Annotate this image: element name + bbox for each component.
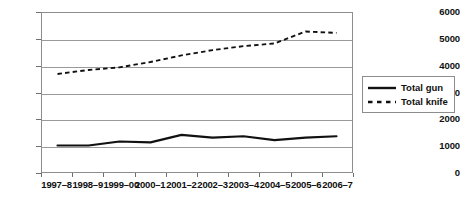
x-tick-label: 2006–7 [322, 180, 353, 190]
legend-item-total-gun: Total gun [363, 81, 454, 95]
y-tick-label: 1000 [426, 141, 460, 151]
x-tick-label: 2005–6 [291, 180, 322, 190]
legend-label-total-knife: Total knife [401, 97, 448, 107]
plot-area [41, 12, 353, 173]
x-tick-mark [103, 173, 104, 177]
x-tick-mark [291, 173, 292, 177]
data-lines [42, 13, 352, 172]
x-tick-mark [259, 173, 260, 177]
legend-item-total-knife: Total knife [363, 95, 454, 109]
legend-swatch-dashed-line-icon [367, 97, 397, 107]
x-tick-mark [166, 173, 167, 177]
x-tick-label: 2002–3 [197, 180, 228, 190]
y-tick-label: 6000 [426, 7, 460, 17]
y-tick-label: 4000 [426, 61, 460, 71]
x-tick-label: 1998–9 [72, 180, 103, 190]
x-tick-mark [72, 173, 73, 177]
y-tick-label: 2000 [426, 114, 460, 124]
x-tick-label: 2003–4 [228, 180, 259, 190]
x-tick-mark [353, 173, 354, 177]
legend-label-total-gun: Total gun [401, 83, 443, 93]
x-tick-mark [135, 173, 136, 177]
x-tick-label: 1999–00 [103, 180, 134, 190]
y-tick-label: 0 [426, 168, 460, 178]
x-tick-label: 2000–1 [135, 180, 166, 190]
x-tick-mark [322, 173, 323, 177]
x-tick-mark [228, 173, 229, 177]
x-tick-mark [41, 173, 42, 177]
y-tick-label: 5000 [426, 34, 460, 44]
x-tick-label: 1997–8 [41, 180, 72, 190]
x-tick-label: 2001–2 [166, 180, 197, 190]
x-tick-label: 2004–5 [259, 180, 290, 190]
chart-legend: Total gun Total knife [362, 76, 455, 113]
legend-swatch-solid-line-icon [367, 83, 397, 93]
series-line-total-gun [58, 135, 337, 146]
line-chart: 6000500040003000200010000 1997–81998–919… [0, 0, 460, 204]
x-tick-mark [197, 173, 198, 177]
series-line-total-knife [58, 32, 337, 74]
